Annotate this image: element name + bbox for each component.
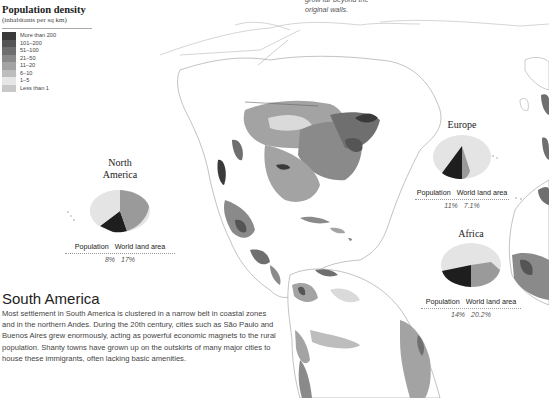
north-america-stats: North America Population World land area… bbox=[60, 157, 180, 263]
north-america-title: North America bbox=[60, 157, 180, 181]
population-density-legend: Population density (inhabitants per sq k… bbox=[2, 4, 92, 92]
land-area-label: World land area bbox=[466, 297, 517, 306]
legend-divider bbox=[2, 28, 92, 29]
legend-item: Less than 1 bbox=[2, 85, 92, 93]
north-america-divider bbox=[65, 253, 175, 254]
legend-item: 51–100 bbox=[2, 47, 92, 55]
africa-title: Africa bbox=[418, 228, 524, 240]
population-label: Population bbox=[75, 242, 109, 251]
legend-item: 6–10 bbox=[2, 70, 92, 78]
north-america-values: 8% 17% bbox=[60, 256, 180, 263]
europe-pie-chart bbox=[422, 131, 502, 183]
land-area-value: 17% bbox=[121, 256, 135, 263]
top-note: grow far beyond the original walls. bbox=[305, 0, 369, 14]
africa-divider bbox=[421, 308, 521, 309]
population-value: 14% bbox=[451, 311, 465, 318]
legend-label: 21–50 bbox=[20, 55, 36, 62]
legend-swatch bbox=[2, 32, 16, 40]
south-america-heading: South America bbox=[2, 290, 100, 307]
land-area-label: World land area bbox=[457, 188, 508, 197]
north-america-labels: Population World land area bbox=[60, 242, 180, 251]
population-value: 8% bbox=[105, 256, 115, 263]
population-value: 11% bbox=[444, 202, 458, 209]
north-america-pie-chart bbox=[75, 181, 165, 237]
europe-density bbox=[541, 94, 549, 160]
legend-swatch bbox=[2, 70, 16, 78]
legend-item: More than 200 bbox=[2, 32, 92, 40]
legend-rows: More than 200 101–200 51–100 21–50 11–20… bbox=[2, 32, 92, 92]
legend-item: 11–20 bbox=[2, 62, 92, 70]
land-area-label: World land area bbox=[115, 242, 166, 251]
legend-item: 1–5 bbox=[2, 77, 92, 85]
arctic-outlines bbox=[160, 20, 549, 55]
legend-label: More than 200 bbox=[20, 32, 56, 39]
africa-stats: Africa Population World land area 14% 20… bbox=[418, 228, 524, 318]
land-area-value: 20.2% bbox=[471, 311, 491, 318]
legend-label: 1–5 bbox=[20, 77, 29, 84]
legend-swatch bbox=[2, 40, 16, 48]
africa-pie-chart bbox=[429, 240, 513, 292]
europe-divider bbox=[415, 199, 509, 200]
africa-labels: Population World land area bbox=[418, 297, 524, 306]
legend-title: Population density bbox=[2, 4, 92, 16]
legend-label: Less than 1 bbox=[20, 85, 49, 92]
legend-subtitle: (inhabitants per sq km) bbox=[2, 16, 92, 25]
land-area-value: 7.1% bbox=[464, 202, 480, 209]
europe-values: 11% 7.1% bbox=[412, 202, 512, 209]
legend-swatch bbox=[2, 47, 16, 55]
europe-title: Europe bbox=[412, 119, 512, 131]
south-america-body: Most settlement in South America is clus… bbox=[2, 308, 278, 364]
legend-swatch bbox=[2, 62, 16, 70]
legend-item: 101–200 bbox=[2, 40, 92, 48]
legend-label: 11–20 bbox=[20, 62, 35, 69]
legend-swatch bbox=[2, 55, 16, 63]
legend-label: 51–100 bbox=[20, 47, 39, 54]
legend-item: 21–50 bbox=[2, 55, 92, 63]
europe-stats: Europe Population World land area 11% 7.… bbox=[412, 119, 512, 209]
legend-label: 101–200 bbox=[20, 40, 42, 47]
europe-labels: Population World land area bbox=[412, 188, 512, 197]
legend-label: 6–10 bbox=[20, 70, 32, 77]
top-note-line-1: grow far beyond the bbox=[305, 0, 369, 5]
africa-values: 14% 20.2% bbox=[418, 311, 524, 318]
legend-swatch bbox=[2, 77, 16, 85]
legend-swatch bbox=[2, 85, 16, 93]
top-note-line-2: original walls. bbox=[305, 5, 369, 15]
population-label: Population bbox=[417, 188, 451, 197]
population-label: Population bbox=[426, 297, 460, 306]
